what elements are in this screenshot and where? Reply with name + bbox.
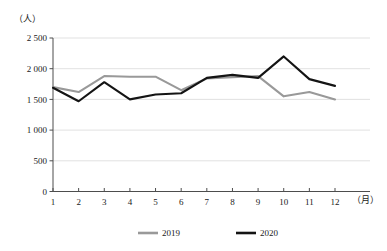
y-tick-label: 1 000: [27, 125, 48, 135]
x-tick-label: 3: [102, 197, 107, 207]
x-tick-label: 11: [305, 197, 314, 207]
x-axis-ticks: 123456789101112: [51, 188, 340, 207]
y-tick-label: 500: [34, 156, 48, 166]
x-tick-label: 4: [128, 197, 133, 207]
line-chart: （人） 05001 0001 5002 0002 500 12345678910…: [0, 0, 387, 251]
y-tick-label: 1 500: [27, 95, 48, 105]
y-tick-label: 2 500: [27, 33, 48, 43]
x-tick-label: 1: [51, 197, 56, 207]
x-tick-label: 12: [331, 197, 340, 207]
x-tick-label: 7: [205, 197, 210, 207]
chart-legend: 20192020: [138, 228, 279, 238]
data-series: [53, 56, 335, 101]
x-axis-unit-label: （月）: [352, 195, 379, 205]
chart-canvas: （人） 05001 0001 5002 0002 500 12345678910…: [0, 0, 387, 251]
y-tick-label: 0: [43, 187, 48, 197]
y-tick-label: 2 000: [27, 64, 48, 74]
legend-label-2020: 2020: [260, 228, 279, 238]
x-tick-label: 8: [230, 197, 235, 207]
x-tick-label: 2: [76, 197, 81, 207]
x-tick-label: 5: [153, 197, 158, 207]
legend-label-2019: 2019: [162, 228, 181, 238]
x-tick-label: 9: [256, 197, 261, 207]
x-tick-label: 10: [279, 197, 289, 207]
y-axis-ticks: 05001 0001 5002 0002 500: [27, 33, 53, 197]
grid-lines: [53, 38, 370, 161]
x-tick-label: 6: [179, 197, 184, 207]
y-axis-unit-label: （人）: [14, 14, 41, 24]
